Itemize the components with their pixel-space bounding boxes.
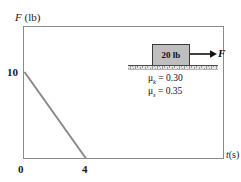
hatched-ground-icon <box>128 65 218 70</box>
applied-force-label: F <box>218 48 225 59</box>
mu-value-kinetic: 0.30 <box>166 73 183 83</box>
mu-equals-static: = <box>156 86 166 96</box>
mu-equals-kinetic: = <box>156 73 166 83</box>
mu-value-static: 0.35 <box>166 86 183 96</box>
free-body-diagram-inset: 20 lb F μk = 0.30 μs = 0.35 <box>128 40 224 100</box>
physics-figure: F (lb) t(s) 10 0 4 20 lb F μk = 0.30 μs … <box>0 0 241 182</box>
right-arrow-icon <box>190 48 218 60</box>
friction-coefficient-list: μk = 0.30 μs = 0.35 <box>148 73 183 98</box>
friction-coefficient-static: μs = 0.35 <box>148 86 183 99</box>
friction-coefficient-kinetic: μk = 0.30 <box>148 73 183 86</box>
block-weight-label: 20 lb <box>153 45 189 65</box>
block-20lb: 20 lb <box>152 44 190 66</box>
